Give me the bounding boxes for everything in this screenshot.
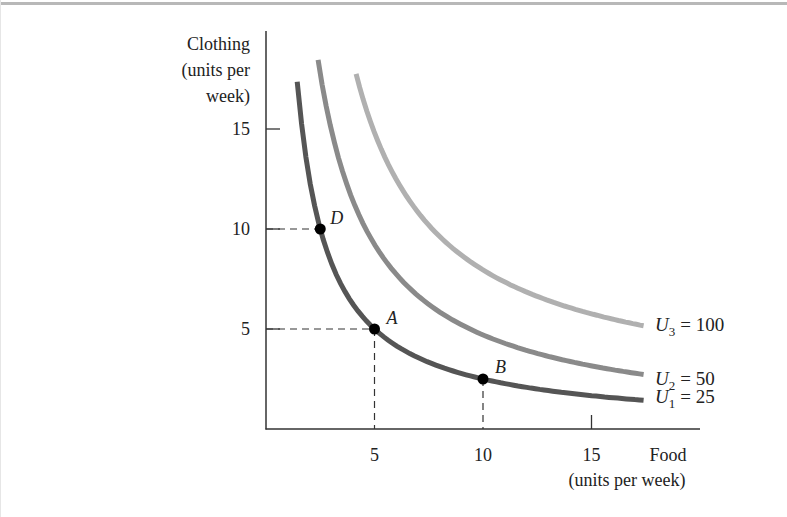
indifference-curve-chart: Clothing (units per week) Food (units pe… <box>0 0 787 517</box>
curve-label-u3: U3= 100 <box>655 314 724 339</box>
indifference-curve-u1 <box>297 82 643 401</box>
x-axis-title-line1: Food <box>649 445 686 465</box>
point-label-a: A <box>386 308 399 328</box>
indifference-curves <box>297 60 643 401</box>
x-axis-title-line2: (units per week) <box>569 470 686 491</box>
y-tick-label: 5 <box>241 319 250 339</box>
y-axis-title-line2: (units per <box>182 60 250 81</box>
curve-label-u1: U1= 25 <box>655 386 715 411</box>
y-axis-title-line1: Clothing <box>187 34 250 54</box>
x-tick-label: 10 <box>474 445 492 465</box>
point-label-d: D <box>329 208 343 228</box>
y-tick-label: 10 <box>232 219 250 239</box>
point-label-b: B <box>495 357 506 377</box>
indifference-curve-u3 <box>356 74 643 326</box>
point-d <box>315 224 326 235</box>
bundle-points: DAB <box>315 208 506 385</box>
y-tick-label: 15 <box>232 119 250 139</box>
y-axis-title-line3: week) <box>206 86 250 107</box>
point-b <box>478 374 489 385</box>
curve-labels: U1= 25U2= 50U3= 100 <box>655 314 724 411</box>
x-tick-label: 15 <box>583 445 601 465</box>
x-tick-label: 5 <box>370 445 379 465</box>
point-a <box>369 324 380 335</box>
